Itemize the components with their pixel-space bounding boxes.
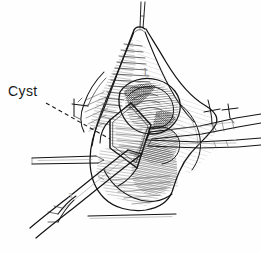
step-marker-label: 1	[142, 66, 148, 78]
illustration-canvas: 3 1 Cyst	[0, 0, 261, 253]
surgical-illustration-figure: 3 1 Cyst	[0, 0, 261, 253]
cyst-label: Cyst	[8, 83, 38, 99]
instrument-marker-label: 3	[68, 191, 73, 200]
